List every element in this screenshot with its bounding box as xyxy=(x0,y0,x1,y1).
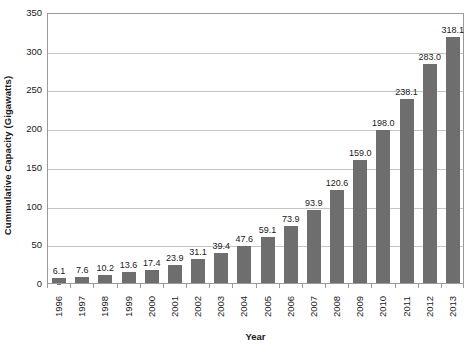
x-tick-mark xyxy=(140,284,141,288)
bar-group: 59.1 xyxy=(257,12,280,283)
x-tick-label-text: 2000 xyxy=(146,296,157,317)
bar-group: 159.0 xyxy=(349,12,372,283)
x-tick-label: 2000 xyxy=(140,289,163,323)
x-tick-label: 2004 xyxy=(232,289,255,323)
x-tick-label: 2001 xyxy=(163,289,186,323)
bar-group: 17.4 xyxy=(141,12,164,283)
bar xyxy=(237,246,251,283)
x-tick-label: 2002 xyxy=(186,289,209,323)
y-tick-label: 300 xyxy=(14,47,42,57)
bar xyxy=(52,278,66,283)
bar-group: 7.6 xyxy=(71,12,94,283)
bar-value-label: 59.1 xyxy=(253,226,283,235)
x-tick-label: 2003 xyxy=(209,289,232,323)
y-tick-label: 150 xyxy=(14,163,42,173)
bar-value-label: 73.9 xyxy=(276,215,306,224)
bar-group: 47.6 xyxy=(233,12,256,283)
bar xyxy=(330,190,344,283)
bar xyxy=(168,265,182,284)
bar xyxy=(423,64,437,283)
x-tick-label: 2005 xyxy=(256,289,279,323)
x-tick-mark xyxy=(117,284,118,288)
x-tick-mark xyxy=(93,284,94,288)
x-tick-mark xyxy=(209,284,210,288)
x-tick-label-text: 2006 xyxy=(285,296,296,317)
bar-group: 93.9 xyxy=(303,12,326,283)
x-tick-mark xyxy=(302,284,303,288)
bar-value-label: 120.6 xyxy=(322,179,352,188)
x-tick-label: 1996 xyxy=(47,289,70,323)
x-tick-label-text: 2007 xyxy=(308,296,319,317)
bar-value-label: 198.0 xyxy=(368,119,398,128)
bar-group: 13.6 xyxy=(118,12,141,283)
x-tick-mark xyxy=(325,284,326,288)
bar xyxy=(284,226,298,283)
bar-chart: Cummulative Capacity (Gigawatts) 0501001… xyxy=(0,0,471,352)
bar-value-label: 283.0 xyxy=(415,53,445,62)
x-tick-label-text: 1997 xyxy=(76,296,87,317)
bar-value-label: 238.1 xyxy=(392,88,422,97)
bar-group: 283.0 xyxy=(419,12,442,283)
x-tick-label: 2006 xyxy=(279,289,302,323)
x-tick-label-text: 2010 xyxy=(377,296,388,317)
x-tick-label-text: 2013 xyxy=(447,296,458,317)
x-tick-label: 2013 xyxy=(441,289,464,323)
x-tick-label: 2010 xyxy=(371,289,394,323)
x-tick-mark xyxy=(441,284,442,288)
bar xyxy=(98,275,112,283)
bar-group: 6.1 xyxy=(48,12,71,283)
x-tick-label: 2007 xyxy=(302,289,325,323)
y-tick-label: 50 xyxy=(14,241,42,251)
bars-layer: 6.17.610.213.617.423.931.139.447.659.173… xyxy=(48,14,463,283)
y-tick-label: 200 xyxy=(14,124,42,134)
x-tick-mark xyxy=(348,284,349,288)
x-tick-label: 2011 xyxy=(395,289,418,323)
x-tick-label: 1997 xyxy=(70,289,93,323)
x-tick-mark xyxy=(279,284,280,288)
bar xyxy=(122,272,136,283)
x-tick-label: 2012 xyxy=(418,289,441,323)
x-tick-mark xyxy=(70,284,71,288)
bar xyxy=(353,160,367,283)
x-tick-label-text: 1996 xyxy=(53,296,64,317)
x-axis-title: Year xyxy=(47,331,464,342)
x-tick-label-text: 2001 xyxy=(169,296,180,317)
x-tick-mark xyxy=(163,284,164,288)
y-tick-label: 250 xyxy=(14,86,42,96)
x-tick-mark xyxy=(186,284,187,288)
x-tick-label-text: 2011 xyxy=(401,296,412,316)
x-tick-mark xyxy=(418,284,419,288)
bar-value-label: 318.1 xyxy=(438,26,468,35)
x-tick-label-text: 2003 xyxy=(215,296,226,317)
y-tick-label: 0 xyxy=(14,279,42,289)
x-tick-label: 1999 xyxy=(117,289,140,323)
bar xyxy=(307,210,321,283)
bar-group: 73.9 xyxy=(280,12,303,283)
x-tick-label-text: 2004 xyxy=(238,296,249,317)
bar xyxy=(191,259,205,283)
y-axis-tick-labels: 050100150200250300350 xyxy=(14,0,42,352)
x-tick-mark xyxy=(371,284,372,288)
x-tick-label-text: 1998 xyxy=(99,296,110,317)
x-tick-label-text: 2009 xyxy=(354,296,365,317)
x-tick-mark xyxy=(463,284,464,288)
bar xyxy=(214,253,228,284)
x-tick-label: 2008 xyxy=(325,289,348,323)
bar xyxy=(400,99,414,283)
y-tick-label: 350 xyxy=(14,8,42,18)
bar-group: 23.9 xyxy=(164,12,187,283)
x-tick-mark xyxy=(47,284,48,288)
x-tick-label: 1998 xyxy=(93,289,116,323)
x-tick-label-text: 2005 xyxy=(262,296,273,317)
bar-value-label: 47.6 xyxy=(229,235,259,244)
x-axis-tick-labels: 1996199719981999200020012002200320042005… xyxy=(47,289,464,325)
x-tick-mark xyxy=(395,284,396,288)
y-axis-title-text: Cummulative Capacity (Gigawatts) xyxy=(3,75,14,234)
bar-value-label: 93.9 xyxy=(299,199,329,208)
bar xyxy=(446,37,460,283)
bar xyxy=(261,237,275,283)
x-tick-label-text: 1999 xyxy=(123,296,134,317)
bar-group: 198.0 xyxy=(372,12,395,283)
bar xyxy=(75,277,89,283)
plot-area: 6.17.610.213.617.423.931.139.447.659.173… xyxy=(47,13,464,284)
